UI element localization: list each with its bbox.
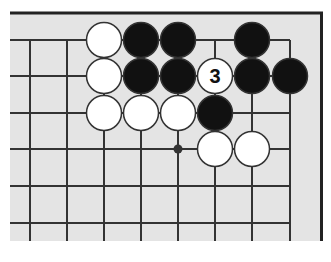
black-stone-circle <box>124 23 159 58</box>
white-stone <box>124 96 159 131</box>
white-stone-circle <box>235 132 270 167</box>
black-stone-circle <box>273 59 308 94</box>
move-number-label: 3 <box>209 65 220 87</box>
black-stone-circle <box>235 23 270 58</box>
white-stone-circle <box>161 96 196 131</box>
white-stone <box>87 96 122 131</box>
black-stone-circle <box>161 59 196 94</box>
white-stone <box>198 132 233 167</box>
black-stone-circle <box>198 96 233 131</box>
black-stone <box>124 59 159 94</box>
black-stone <box>198 96 233 131</box>
black-stone <box>273 59 308 94</box>
white-stone-circle <box>87 96 122 131</box>
white-stone-circle <box>124 96 159 131</box>
black-stone <box>235 23 270 58</box>
go-board-diagram: 3 <box>0 0 331 262</box>
black-stone-circle <box>124 59 159 94</box>
black-stone <box>124 23 159 58</box>
white-stone-circle <box>87 59 122 94</box>
white-stone-circle <box>198 132 233 167</box>
black-stone <box>161 23 196 58</box>
black-stone-circle <box>235 59 270 94</box>
white-stone <box>87 23 122 58</box>
white-stone <box>235 132 270 167</box>
black-stone-circle <box>161 23 196 58</box>
white-stone <box>87 59 122 94</box>
white-stone: 3 <box>198 59 233 94</box>
star-point <box>174 145 183 154</box>
black-stone <box>235 59 270 94</box>
white-stone-circle <box>87 23 122 58</box>
star-points <box>174 145 183 154</box>
black-stone <box>161 59 196 94</box>
white-stone <box>161 96 196 131</box>
